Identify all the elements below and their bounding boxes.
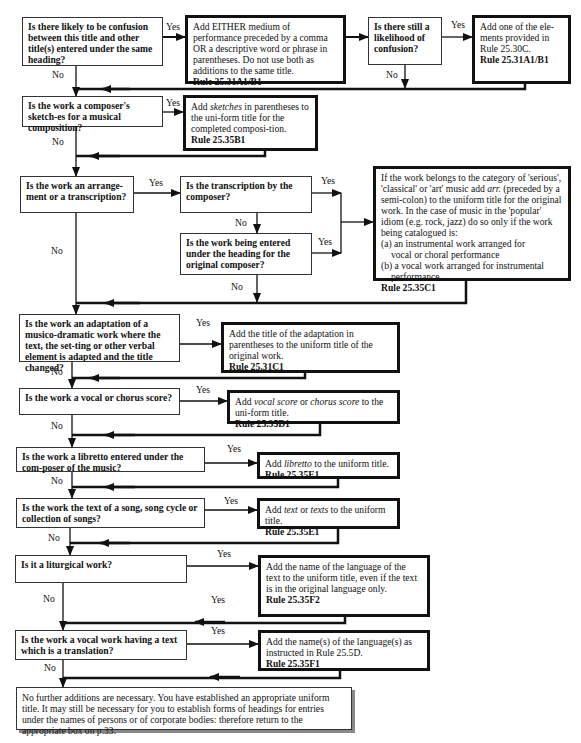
rule-ref: Rule 25.31C1 — [229, 361, 392, 372]
action-text-emphasis: vocal score — [254, 396, 298, 407]
question-adaptation: Is the work an adaptation of a musico-dr… — [19, 314, 180, 362]
action-text-emphasis: sketches — [210, 101, 242, 112]
no-label: No — [52, 137, 64, 147]
action-text-emphasis: texts — [311, 504, 329, 515]
question-libretto: Is the work a libretto entered under the… — [16, 447, 205, 472]
action-text-emphasis: libretto — [284, 458, 312, 469]
yes-label: Yes — [196, 318, 210, 328]
action-text: or — [298, 396, 311, 407]
rule-ref: Rule 25.35D1 — [235, 418, 392, 429]
question-text: Is the work a libretto entered under the… — [22, 451, 183, 473]
yes-label: Yes — [211, 595, 225, 605]
no-label: No — [52, 70, 64, 80]
rule-ref: Rule 25.31A1/B1 — [480, 54, 563, 65]
yes-label: Yes — [166, 22, 180, 32]
yes-label: Yes — [451, 20, 465, 30]
list-item: performance. — [381, 271, 563, 282]
no-label: No — [231, 282, 243, 292]
question-text: Is the work a vocal work having a text w… — [21, 634, 177, 656]
question-text: Is it a liturgical work? — [21, 559, 112, 570]
question-vocal-score: Is the work a vocal or chorus score? — [19, 388, 180, 415]
action-text: Add — [191, 101, 210, 112]
no-label: No — [51, 476, 63, 486]
yes-label: Yes — [224, 496, 238, 506]
no-label: No — [51, 246, 63, 256]
no-label: No — [48, 533, 60, 543]
yes-label: Yes — [196, 385, 210, 395]
action-text: Add one of the ele-ments provided in Rul… — [480, 21, 554, 54]
action-text: Add EITHER medium of performance precede… — [193, 21, 328, 76]
action-text: Add the name of the language of the text… — [266, 561, 417, 594]
action-text: Add the title of the adaptation in paren… — [229, 328, 373, 361]
action-add-arr: If the work belongs to the category of '… — [373, 166, 571, 281]
no-label: No — [51, 421, 63, 431]
question-text: Is the transcription by the composer? — [186, 180, 293, 202]
action-text: Add — [235, 396, 254, 407]
question-text: Is there likely to be confusion between … — [28, 21, 152, 65]
yes-label: Yes — [217, 549, 231, 559]
final-text: No further additions are necessary. You … — [22, 692, 329, 736]
yes-label: Yes — [211, 626, 225, 636]
action-text-emphasis: chorus score — [310, 396, 359, 407]
question-sketches: Is the work a composer's sketch-es for a… — [22, 96, 163, 127]
question-text: Is there still a likelihood of confusion… — [374, 21, 430, 54]
action-add-adaptation-title: Add the title of the adaptation in paren… — [221, 322, 400, 373]
question-song-text: Is the work the text of a song, song cyc… — [16, 498, 205, 528]
action-text: or — [298, 504, 311, 515]
no-label: No — [44, 663, 56, 673]
yes-label: Yes — [149, 178, 163, 188]
no-label: No — [43, 594, 55, 604]
question-still-confusion: Is there still a likelihood of confusion… — [368, 17, 442, 65]
action-add-medium-or-phrase: Add EITHER medium of performance precede… — [185, 15, 346, 84]
action-add-sketches: Add sketches in parentheses to the uni-f… — [183, 95, 318, 151]
list-item: vocal or choral performance — [381, 249, 563, 260]
action-text: to the uniform title. — [312, 458, 389, 469]
rule-ref: Rule 25.35F2 — [266, 594, 422, 605]
no-label: No — [51, 367, 63, 377]
yes-label: Yes — [227, 444, 241, 454]
action-add-element: Add one of the ele-ments provided in Rul… — [472, 15, 571, 84]
rule-ref: Rule 25.35F1 — [266, 658, 422, 669]
question-text: Is the work an arrange-ment or a transcr… — [26, 180, 126, 202]
yes-label: Yes — [318, 237, 332, 247]
yes-label: Yes — [166, 98, 180, 108]
action-add-libretto: Add libretto to the uniform title. Rule … — [257, 452, 400, 479]
action-text-emphasis: arr. — [487, 183, 501, 194]
question-original-composer: Is the work being entered under the head… — [180, 233, 312, 275]
action-add-vocal-score: Add vocal score or chorus score to the u… — [227, 390, 400, 424]
rule-ref: Rule 25.31A1/B1 — [193, 76, 338, 87]
action-add-language-translation: Add the name(s) of the language(s) as in… — [258, 630, 430, 671]
action-text-emphasis: text — [284, 504, 298, 515]
no-label: No — [235, 218, 247, 228]
question-text: Is the work a vocal or chorus score? — [25, 392, 172, 403]
action-text: Add — [265, 458, 284, 469]
list-item: (b) a vocal work arranged for instrument… — [381, 260, 563, 271]
final-conclusion-box: No further additions are necessary. You … — [16, 687, 352, 730]
action-text: Add the name(s) of the language(s) as in… — [266, 636, 412, 658]
question-transcription-by-composer: Is the transcription by the composer? — [180, 176, 312, 213]
question-liturgical: Is it a liturgical work? — [15, 555, 187, 583]
rule-ref: Rule 25.35B1 — [191, 134, 310, 145]
action-add-text: Add text or texts to the uniform title. … — [257, 498, 400, 529]
action-text: Add — [265, 504, 284, 515]
question-text: Is the work being entered under the head… — [186, 237, 290, 270]
rule-ref: Rule 25.35C1 — [381, 282, 563, 293]
no-label: No — [386, 70, 398, 80]
action-add-language-liturgical: Add the name of the language of the text… — [258, 555, 430, 617]
question-text: Is the work the text of a song, song cyc… — [22, 502, 197, 524]
list-item: (a) an instrumental work arranged for — [381, 238, 563, 249]
rule-ref: Rule 25.35E1 — [265, 526, 392, 537]
question-translation: Is the work a vocal work having a text w… — [15, 630, 187, 660]
question-confusion: Is there likely to be confusion between … — [22, 17, 163, 66]
question-arrangement: Is the work an arrange-ment or a transcr… — [20, 176, 134, 213]
rule-ref: Rule 25.35E1 — [265, 469, 392, 480]
yes-label: Yes — [321, 176, 335, 186]
